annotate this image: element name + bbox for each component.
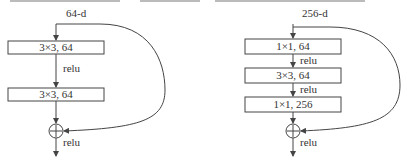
conv-layer-1-label: 1×1, 64	[276, 40, 310, 52]
residual-blocks-diagram: 64-d 3×3, 64 relu 3×3, 64 relu 256-d 1×1…	[0, 0, 407, 162]
relu-label: relu	[63, 62, 81, 74]
input-dim-label: 256-d	[302, 7, 328, 19]
relu-label-2: relu	[300, 83, 318, 95]
output-relu-label: relu	[63, 136, 81, 148]
relu-label-1: relu	[300, 54, 318, 66]
conv-layer-3-label: 1×1, 256	[273, 98, 313, 110]
conv-layer-2-label: 3×3, 64	[39, 88, 73, 100]
output-relu-label: relu	[300, 136, 318, 148]
basic-residual-block: 64-d 3×3, 64 relu 3×3, 64 relu	[8, 7, 165, 156]
conv-layer-2-label: 3×3, 64	[276, 69, 310, 81]
bottleneck-residual-block: 256-d 1×1, 64 relu 3×3, 64 relu 1×1, 256…	[245, 7, 400, 156]
input-dim-label: 64-d	[66, 7, 87, 19]
conv-layer-1-label: 3×3, 64	[39, 41, 73, 53]
